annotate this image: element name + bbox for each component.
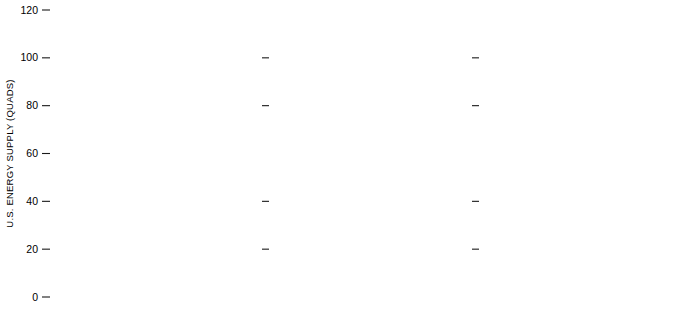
y-tick-label-60: 60: [26, 147, 38, 159]
y-tick-label-80: 80: [26, 99, 38, 111]
chart-canvas: U.S. ENERGY SUPPLY (QUADS)02040608010012…: [0, 0, 682, 322]
y-tick-label-40: 40: [26, 195, 38, 207]
y-tick-label-120: 120: [20, 4, 38, 16]
y-tick-label-100: 100: [20, 51, 38, 63]
y-axis-title: U.S. ENERGY SUPPLY (QUADS): [4, 79, 15, 227]
energy-supply-figure: U.S. ENERGY SUPPLY (QUADS)02040608010012…: [0, 0, 682, 322]
y-tick-label-0: 0: [32, 291, 38, 303]
y-tick-label-20: 20: [26, 243, 38, 255]
